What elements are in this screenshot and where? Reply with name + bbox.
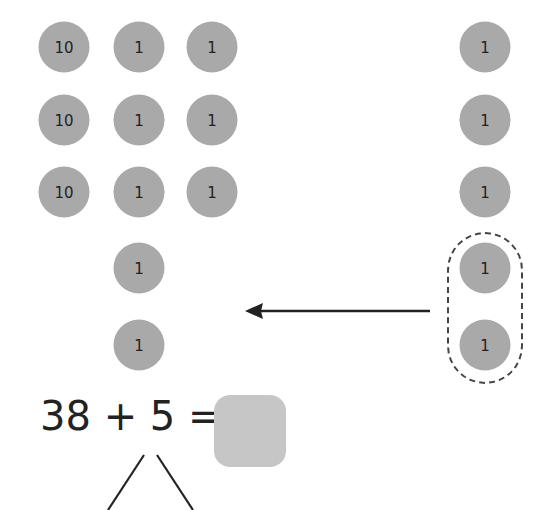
arrow-left-icon	[245, 303, 430, 319]
one-counter: 1	[114, 22, 165, 73]
one-counter: 1	[460, 320, 511, 371]
one-counter: 1	[460, 167, 511, 218]
bond-line-left	[108, 455, 144, 510]
addend-2: 5	[150, 393, 175, 439]
one-counter: 1	[460, 95, 511, 146]
ten-counter: 10	[39, 22, 90, 73]
bond-line-right	[157, 455, 193, 510]
plus-sign: +	[104, 393, 138, 439]
ten-counter: 10	[39, 95, 90, 146]
equation: 38 + 5 =	[40, 393, 222, 439]
one-counter: 1	[114, 167, 165, 218]
one-counter: 1	[460, 243, 511, 294]
addend-1: 38	[40, 393, 91, 439]
one-counter: 1	[187, 95, 238, 146]
one-counter: 1	[114, 243, 165, 294]
one-counter: 1	[187, 22, 238, 73]
one-counter: 1	[460, 22, 511, 73]
one-counter: 1	[187, 167, 238, 218]
one-counter: 1	[114, 95, 165, 146]
ten-counter: 10	[39, 167, 90, 218]
answer-box[interactable]	[214, 395, 286, 467]
one-counter: 1	[114, 320, 165, 371]
